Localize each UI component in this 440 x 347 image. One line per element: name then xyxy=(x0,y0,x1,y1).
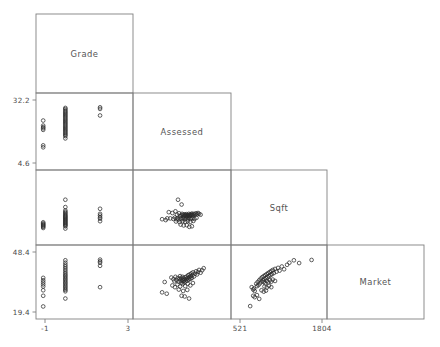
data-point xyxy=(255,293,259,297)
data-point xyxy=(41,119,45,123)
panels-layer xyxy=(36,14,424,319)
x-tick-label-right: 1804 xyxy=(312,324,332,333)
points-group xyxy=(41,105,102,149)
points-group xyxy=(41,198,102,231)
diagonal-label-grade: Grade xyxy=(70,49,98,59)
splom-canvas: 32.24.648.419.4-135211804 GradeAssessedS… xyxy=(0,0,440,347)
data-point xyxy=(160,217,164,221)
data-point xyxy=(64,297,68,301)
data-point xyxy=(98,207,102,211)
points-group xyxy=(160,198,202,229)
splom-panel-assessed-vs-grade xyxy=(36,93,133,170)
panel-frame xyxy=(133,170,231,245)
data-point xyxy=(174,220,178,224)
splom-panel-market-vs-assessed xyxy=(133,245,231,319)
points-group xyxy=(160,266,205,300)
data-point xyxy=(257,297,261,301)
data-point xyxy=(181,289,185,293)
x-tick-label-left: 521 xyxy=(233,324,248,333)
data-point xyxy=(292,258,296,262)
data-point xyxy=(41,305,45,309)
points-group xyxy=(248,258,313,308)
data-point xyxy=(41,294,45,298)
data-point xyxy=(180,203,184,207)
data-point xyxy=(41,288,45,292)
panel-frame xyxy=(36,170,133,245)
y-tick-label-bottom: 19.4 xyxy=(13,308,30,317)
y-tick-label-bottom: 4.6 xyxy=(18,159,30,168)
y-tick-label-top: 32.2 xyxy=(13,96,30,105)
splom-panel-sqft-vs-assessed xyxy=(133,170,231,245)
data-point xyxy=(176,198,180,202)
splom-panel-sqft-vs-grade xyxy=(36,170,133,245)
x-tick-label-left: -1 xyxy=(41,324,49,333)
data-point xyxy=(98,285,102,289)
data-point xyxy=(98,114,102,118)
data-point xyxy=(310,258,314,262)
data-point xyxy=(163,280,167,284)
data-point xyxy=(185,288,189,292)
data-point xyxy=(297,261,301,265)
y-tick-label-top: 48.4 xyxy=(13,248,30,257)
panel-frame xyxy=(231,245,327,319)
data-point xyxy=(282,267,286,271)
data-point xyxy=(165,292,169,296)
data-point xyxy=(98,219,102,223)
splom-panel-market-vs-sqft xyxy=(231,245,327,319)
panel-frame xyxy=(36,245,133,319)
scatterplot-matrix: 32.24.648.419.4-135211804 GradeAssessedS… xyxy=(0,0,440,347)
data-point xyxy=(248,304,252,308)
data-point xyxy=(160,290,164,294)
data-point xyxy=(191,281,195,285)
splom-panel-market-vs-grade xyxy=(36,245,133,319)
points-group xyxy=(41,258,102,309)
panel-frame xyxy=(36,93,133,170)
diagonal-label-sqft: Sqft xyxy=(270,203,289,213)
data-point xyxy=(190,224,194,228)
x-tick-label-right: 3 xyxy=(126,324,131,333)
data-point xyxy=(288,261,292,265)
data-point xyxy=(167,210,171,214)
data-point xyxy=(64,198,68,202)
diagonal-label-assessed: Assessed xyxy=(161,127,204,137)
data-point xyxy=(285,263,289,267)
diagonal-label-market: Market xyxy=(360,277,392,287)
data-point xyxy=(187,297,191,301)
